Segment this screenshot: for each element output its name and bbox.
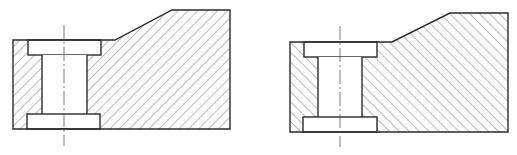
left-counterbore-top bbox=[28, 40, 101, 55]
left-section-view bbox=[13, 10, 230, 146]
left-through-hole bbox=[42, 55, 87, 114]
drawing-canvas bbox=[0, 0, 517, 155]
right-section-view bbox=[290, 13, 508, 147]
left-counterbore-bottom bbox=[27, 114, 100, 129]
right-counterbore-top bbox=[304, 42, 377, 57]
